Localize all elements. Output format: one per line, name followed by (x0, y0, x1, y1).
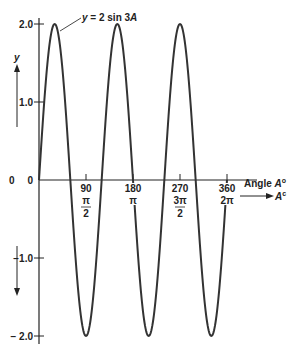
y-axis-label: y (13, 52, 20, 63)
x-tick-label-group: 3602π (218, 183, 236, 206)
y-tick-label: 0 (27, 175, 33, 186)
x-axis-label: Angle Ao (244, 177, 286, 189)
annotation-leader (60, 18, 81, 31)
x-tick-label: 90 (80, 183, 92, 194)
x-axis-radian-label: Ac (274, 190, 286, 202)
x-tick-radian-label: π (129, 195, 137, 206)
y-tick-label: 2.0 (19, 19, 33, 30)
x-tick-radian-denominator: 2 (177, 208, 183, 219)
y-tick-label: − 2.0 (10, 331, 33, 342)
y-tick-label: −1.0 (13, 253, 33, 264)
x-tick-radian-label: π (82, 195, 90, 206)
down-arrow-icon (14, 288, 20, 296)
x-tick-label-group: 90π2 (77, 183, 95, 221)
x-tick-label: 360 (219, 183, 236, 194)
y-tick-label: 1.0 (19, 97, 33, 108)
right-arrow-icon (266, 193, 274, 199)
x-tick-radian-label: 2π (220, 195, 234, 206)
up-arrow-icon (14, 64, 20, 72)
x-tick-radian-label: 3π (173, 195, 187, 206)
x-tick-label-group: 180π (124, 183, 142, 206)
x-tick-label-group: 2703π2 (171, 183, 189, 221)
x-tick-label: 180 (125, 183, 142, 194)
sine-chart: 2.01.00−1.0− 2.00 90π2180π2703π23602π y … (0, 0, 295, 359)
origin-label: 0 (9, 175, 15, 186)
x-tick-radian-denominator: 2 (83, 208, 89, 219)
curve-annotation: y = 2 sin 3A (81, 12, 137, 23)
x-tick-label: 270 (172, 183, 189, 194)
x-ticks (86, 174, 227, 180)
